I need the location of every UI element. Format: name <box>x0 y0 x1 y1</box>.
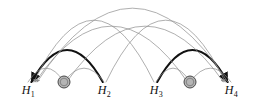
node-label-h3: H3 <box>150 84 163 96</box>
hidden-node-circle <box>184 76 196 88</box>
hidden-node-circle <box>58 76 70 88</box>
hidden-node-2 <box>184 76 196 88</box>
node-label-h3-subscript: 3 <box>159 90 163 99</box>
arc-z2-to-h1 <box>35 26 187 82</box>
node-label-h2-letter: H <box>98 83 107 97</box>
arc-z1-to-h4 <box>67 26 224 82</box>
node-label-h1-subscript: 1 <box>31 90 35 99</box>
arc-diagram-figure: H1 H2 H3 H4 <box>0 0 255 104</box>
arc-diagram-canvas <box>0 0 255 104</box>
hidden-node-1 <box>58 76 70 88</box>
node-label-h3-letter: H <box>150 83 159 97</box>
node-label-h2: H2 <box>98 84 111 96</box>
node-label-h1-letter: H <box>22 83 31 97</box>
node-label-h4-subscript: 4 <box>234 90 238 99</box>
node-label-h4-letter: H <box>225 83 234 97</box>
node-label-h1: H1 <box>22 84 35 96</box>
hidden-nodes-layer <box>58 76 196 88</box>
node-label-h2-subscript: 2 <box>107 90 111 99</box>
node-label-h4: H4 <box>225 84 238 96</box>
arc-h2-to-h4 <box>106 20 225 82</box>
arcs-layer <box>28 8 231 82</box>
